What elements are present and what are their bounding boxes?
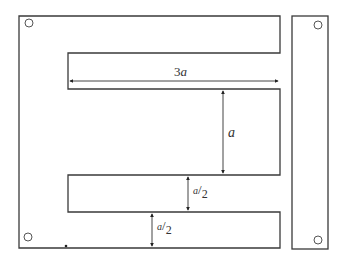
dimension-label-3a: 3a <box>174 64 188 79</box>
i-bar-outline <box>292 16 328 249</box>
e-core-outline <box>19 16 280 248</box>
edge-mark <box>65 245 68 248</box>
e-i-core-diagram: 3a a a/2 a/2 <box>0 0 346 260</box>
dimension-label-a: a <box>228 125 235 140</box>
dimension-label-a-half-arm: a/2 <box>157 218 172 237</box>
hole-top-right <box>314 21 322 29</box>
hole-top-left <box>25 19 33 27</box>
hole-bottom-right <box>314 236 322 244</box>
hole-bottom-left <box>24 233 32 241</box>
dimension-label-a-half-slot: a/2 <box>193 182 208 201</box>
